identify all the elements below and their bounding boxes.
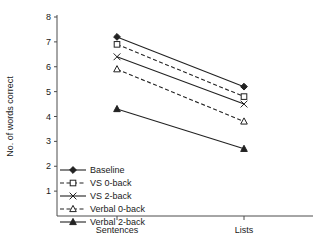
y-tick-label: 1 [46,186,51,196]
data-point-baseline [114,34,121,41]
legend-marker-baseline [70,167,77,174]
y-axis-title: No. of words correct [5,76,15,157]
series-line-verbal-0-back [117,69,244,121]
data-point-verbal-0-back [114,66,121,72]
y-tick-label: 2 [46,161,51,171]
series-line-vs-0-back [117,44,244,96]
legend-label-vs-0-back: VS 0-back [90,178,132,188]
series-line-vs-2-back [117,57,244,104]
data-point-baseline [241,83,248,90]
legend-marker-vs-0-back [70,180,76,186]
y-tick-label: 5 [46,87,51,97]
chart-container: 12345678No. of words correctSentencesLis… [0,0,320,250]
data-point-verbal-0-back [241,118,248,124]
legend-label-verbal-2-back: Verbal 2-back [90,217,146,227]
data-point-vs-0-back [241,94,247,100]
y-tick-label: 3 [46,136,51,146]
legend-label-baseline: Baseline [90,165,125,175]
line-chart: 12345678No. of words correctSentencesLis… [0,0,320,250]
data-point-verbal-2-back [114,105,121,111]
data-point-vs-0-back [114,42,120,48]
y-tick-label: 8 [46,12,51,22]
series-line-baseline [117,37,244,87]
y-tick-label: 4 [46,112,51,122]
legend-label-vs-2-back: VS 2-back [90,191,132,201]
x-tick-label-lists: Lists [235,225,254,235]
legend-label-verbal-0-back: Verbal 0-back [90,204,146,214]
series-line-verbal-2-back [117,109,244,149]
y-tick-label: 6 [46,62,51,72]
y-tick-label: 7 [46,37,51,47]
